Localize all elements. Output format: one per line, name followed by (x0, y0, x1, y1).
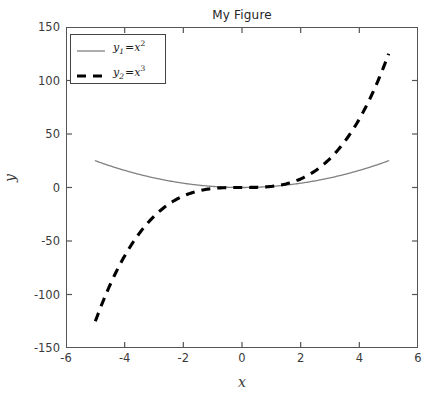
ytick-label: 0 (14, 181, 60, 195)
xtick-label: -4 (105, 351, 145, 365)
ytick-label: -100 (14, 288, 60, 302)
xtick-label: -2 (163, 351, 203, 365)
series-line-y2 (95, 54, 388, 322)
ytick-label: 150 (14, 20, 60, 34)
y-axis-label: y (2, 174, 18, 182)
xtick-label: -6 (46, 351, 86, 365)
legend-label-y1: y1 =x2 (113, 39, 145, 56)
xtick-label: 0 (222, 351, 262, 365)
series-line-y1 (95, 161, 388, 188)
matplotlib-figure: My Figure (0, 0, 442, 406)
legend-entry-y1[interactable]: y1 =x2 (71, 35, 165, 60)
legend-label-y2: y2 =x3 (113, 64, 145, 81)
x-axis-label: x (66, 374, 418, 390)
ytick-label: -50 (14, 234, 60, 248)
page-title: My Figure (66, 8, 418, 22)
legend-entry-y2[interactable]: y2 =x3 (71, 60, 165, 85)
xtick-label: 4 (339, 351, 379, 365)
ytick-label: 100 (14, 74, 60, 88)
legend-line-sample-solid (76, 42, 106, 54)
xtick-label: 6 (398, 351, 438, 365)
legend-box[interactable]: y1 =x2 y2 =x3 (70, 34, 166, 84)
ytick-label: 50 (14, 127, 60, 141)
xtick-label: 2 (281, 351, 321, 365)
legend-line-sample-dashed (76, 67, 106, 79)
